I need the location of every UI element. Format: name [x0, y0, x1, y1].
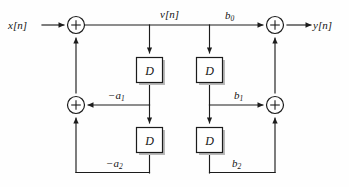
delay-fb-1-label: D: [144, 64, 154, 78]
input-signal-label: x[n]: [7, 19, 27, 31]
flow-graph-canvas: D D D D: [0, 0, 349, 187]
adder-feedforward[interactable]: [267, 97, 284, 114]
delay-fb-2-label: D: [144, 134, 154, 148]
adder-feedback[interactable]: [68, 97, 85, 114]
coef-b0-sub: 0: [231, 14, 235, 23]
delay-ff-2-label: D: [204, 134, 214, 148]
coef-b1-sub: 1: [240, 94, 244, 103]
delay-block-ff-2[interactable]: D: [197, 128, 226, 156]
coef-neg-a2-label: −a2: [106, 157, 123, 171]
delay-ff-1-label: D: [204, 64, 214, 78]
adder-input[interactable]: [68, 17, 85, 34]
coef-b2-label: b2: [232, 157, 242, 171]
signal-flow-diagram: D D D D: [0, 0, 349, 187]
coef-neg-a1-base: −a: [108, 89, 121, 101]
delay-block-ff-1[interactable]: D: [197, 58, 226, 86]
coef-b1-label: b1: [234, 89, 243, 103]
coef-neg-a2-sub: 2: [119, 162, 123, 171]
adder-output[interactable]: [267, 17, 284, 34]
coef-b2-sub: 2: [238, 162, 242, 171]
delay-block-fb-1[interactable]: D: [137, 58, 166, 86]
coef-neg-a2-base: −a: [106, 157, 119, 169]
coef-neg-a1-sub: 1: [121, 94, 125, 103]
intermediate-signal-label: v[n]: [160, 8, 179, 20]
coef-b0-label: b0: [225, 9, 235, 23]
output-signal-label: y[n]: [312, 19, 332, 31]
coef-neg-a1-label: −a1: [108, 89, 125, 103]
delay-block-fb-2[interactable]: D: [137, 128, 166, 156]
